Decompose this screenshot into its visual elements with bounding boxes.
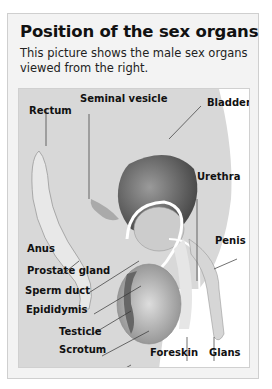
page-title: Position of the sex organs bbox=[20, 22, 258, 41]
label-scrotum: Scrotum bbox=[59, 344, 106, 355]
label-sperm-duct: Sperm duct bbox=[25, 285, 90, 296]
anatomy-drawing bbox=[19, 89, 250, 368]
label-seminal-vesicle: Seminal vesicle bbox=[80, 93, 167, 104]
label-bladder: Bladder bbox=[207, 97, 250, 108]
label-rectum: Rectum bbox=[29, 105, 72, 116]
label-epididymis: Epididymis bbox=[26, 304, 87, 315]
label-foreskin: Foreskin bbox=[150, 347, 198, 358]
label-prostate-gland: Prostate gland bbox=[27, 265, 110, 276]
label-penis: Penis bbox=[215, 235, 246, 246]
label-urethra: Urethra bbox=[197, 171, 240, 182]
label-testicle: Testicle bbox=[59, 326, 102, 337]
label-glans: Glans bbox=[209, 347, 240, 358]
subtitle: This picture shows the male sex organs v… bbox=[20, 46, 250, 76]
label-anus: Anus bbox=[27, 243, 55, 254]
anatomy-illustration: Seminal vesicle Bladder Rectum Urethra P… bbox=[18, 88, 250, 368]
